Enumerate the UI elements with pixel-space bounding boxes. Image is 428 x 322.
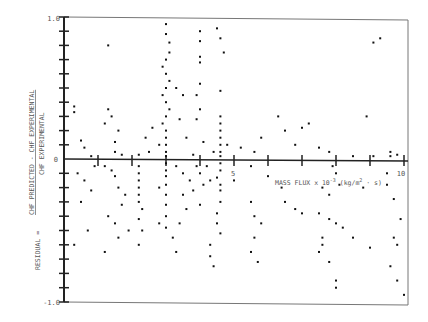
y-label-denominator: CHF EXPERIMENTAL: [38, 112, 46, 175]
residual-scatter-chart: 1.0 0 -1.0 5 10 MASS FLUX x 10-3 (kg/m2 …: [0, 0, 428, 322]
x-axis-label: MASS FLUX x 10-3 (kg/m2 · s): [275, 177, 382, 187]
y-label-numerator: CHF PREDICTED - CHF EXPERIMENTAL: [28, 90, 36, 215]
y-tick-label-bottom: -1.0: [43, 299, 60, 307]
y-tick-label-zero: 0: [54, 156, 58, 164]
x-tick-label-5: 5: [231, 170, 235, 178]
x-tick-label-10: 10: [397, 170, 405, 178]
plot-frame-top: [64, 17, 408, 20]
y-axis-label: RESIDUAL = CHF PREDICTED - CHF EXPERIMEN…: [28, 90, 46, 270]
x-axis-zero-line: [64, 159, 408, 161]
plot-frame-bottom: [64, 302, 408, 305]
y-tick-label-top: 1.0: [47, 15, 60, 23]
y-label-prefix: RESIDUAL =: [34, 231, 42, 270]
